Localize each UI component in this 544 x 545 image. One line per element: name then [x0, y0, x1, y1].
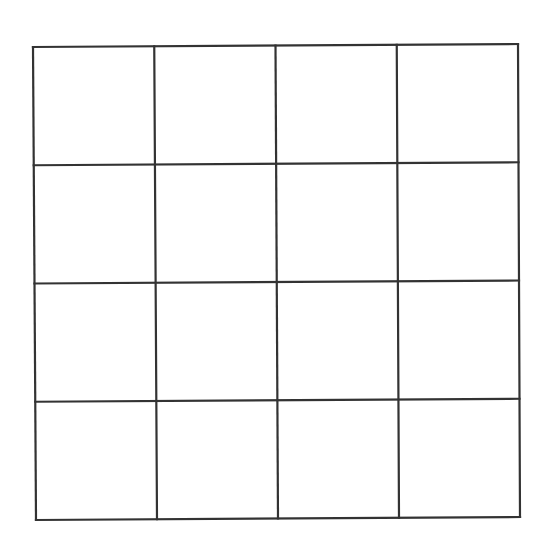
grid-cell-r4-c2 — [156, 400, 278, 519]
grid-cell-r2-c1 — [34, 165, 156, 284]
grid-cell-r2-c3 — [276, 163, 398, 282]
grid-cell-r4-c1 — [35, 401, 157, 520]
grid-cell-r3-c4 — [398, 281, 520, 400]
grid-cell-r1-c1 — [33, 46, 155, 165]
grid-cell-r1-c4 — [397, 44, 519, 163]
grid-cell-r1-c3 — [276, 45, 398, 164]
grid-cell-r2-c2 — [155, 164, 277, 283]
grid-cell-r2-c4 — [397, 162, 519, 281]
grid-cell-r1-c2 — [154, 46, 276, 165]
grid-cell-r3-c1 — [35, 283, 157, 402]
grid-cell-r4-c3 — [277, 400, 399, 519]
grid-cell-r4-c4 — [398, 399, 520, 518]
grid-diagram — [0, 0, 544, 545]
grid-cell-r3-c3 — [277, 281, 399, 400]
grid-cell-r3-c2 — [156, 282, 278, 401]
